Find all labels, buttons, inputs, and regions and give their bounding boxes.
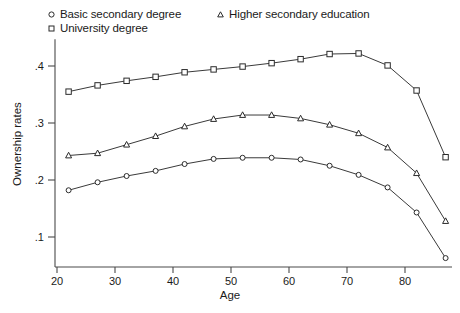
y-axis-title: Ownership rates	[11, 84, 23, 204]
data-point-marker	[414, 210, 419, 215]
x-tick-label: 60	[283, 275, 295, 287]
x-tick-label: 50	[225, 275, 237, 287]
data-point-marker	[356, 172, 361, 177]
y-tick-label: .2	[35, 174, 44, 186]
series-higher-secondary-education	[66, 112, 449, 224]
data-point-marker	[414, 88, 419, 93]
data-point-marker	[124, 78, 129, 83]
data-point-marker	[182, 70, 187, 75]
data-point-marker	[153, 74, 158, 79]
chart-container: .1.2.3.420304050607080 Basic secondary d…	[0, 0, 460, 313]
data-point-marker	[211, 67, 216, 72]
data-point-marker	[385, 144, 391, 150]
data-point-marker	[327, 51, 332, 56]
series-basic-secondary-degree	[66, 155, 448, 260]
data-point-marker	[269, 155, 274, 160]
line-chart-plot: .1.2.3.420304050607080	[0, 0, 460, 313]
y-tick-label: .1	[35, 231, 44, 243]
x-tick-label: 40	[167, 275, 179, 287]
data-point-marker	[240, 64, 245, 69]
series-group	[66, 51, 449, 261]
x-tick-label: 30	[109, 275, 121, 287]
data-point-marker	[298, 56, 303, 61]
data-point-marker	[211, 156, 216, 161]
data-point-marker	[443, 218, 449, 224]
data-point-marker	[269, 60, 274, 65]
x-tick-label: 20	[51, 275, 63, 287]
data-point-marker	[182, 162, 187, 167]
y-tick-label: .3	[35, 117, 44, 129]
data-point-marker	[327, 163, 332, 168]
data-point-marker	[240, 155, 245, 160]
series-line	[69, 158, 446, 258]
data-point-marker	[443, 256, 448, 261]
series-line	[69, 115, 446, 221]
data-point-marker	[385, 63, 390, 68]
x-axis-title: Age	[0, 289, 460, 301]
data-point-marker	[66, 89, 71, 94]
series-line	[69, 53, 446, 157]
data-point-marker	[153, 168, 158, 173]
data-point-marker	[443, 155, 448, 160]
data-point-marker	[66, 188, 71, 193]
data-point-marker	[124, 174, 129, 179]
data-point-marker	[95, 180, 100, 185]
y-tick-label: .4	[35, 60, 44, 72]
data-point-marker	[385, 185, 390, 190]
x-tick-label: 80	[399, 275, 411, 287]
x-tick-label: 70	[341, 275, 353, 287]
data-point-marker	[95, 83, 100, 88]
data-point-marker	[356, 51, 361, 56]
axes-group: .1.2.3.420304050607080	[35, 39, 452, 287]
data-point-marker	[298, 157, 303, 162]
series-university-degree	[66, 51, 448, 160]
